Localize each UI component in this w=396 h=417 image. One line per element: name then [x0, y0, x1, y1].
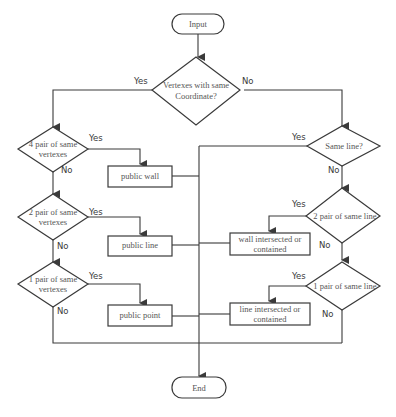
process-public-wall-label: public wall — [121, 171, 160, 181]
label-no-2pairline: No — [319, 240, 331, 250]
process-wall-intersected-line1: wall intersected or — [239, 234, 302, 244]
decision-1-pair-line-label: 1 pair of same line — [313, 281, 376, 291]
process-public-wall: public wall — [108, 166, 172, 187]
decision-4-pair-line2: vertexes — [39, 149, 67, 159]
edge-coord-yes — [53, 90, 152, 127]
label-yes-2pair: Yes — [88, 207, 103, 217]
node-end: End — [172, 377, 226, 398]
label-yes-4pair: Yes — [88, 133, 103, 143]
decision-2-pair-line: 2 pair of same line — [306, 188, 380, 243]
process-line-intersected-line2: contained — [253, 314, 287, 324]
decision-same-line-label: Same line? — [325, 141, 363, 151]
decision-2-pair-line1: 2 pair of same — [29, 207, 78, 217]
edge-1pair-yes — [88, 284, 140, 303]
decision-1-pair-vertexes: 1 pair of same vertexes — [18, 262, 88, 307]
label-no-sameline: No — [328, 165, 340, 175]
edge-2pairline-yes — [269, 216, 307, 231]
process-wall-intersected-line2: contained — [253, 244, 287, 254]
edge-4pair-yes — [88, 149, 140, 164]
node-end-label: End — [192, 383, 206, 393]
process-public-point-label: public point — [120, 310, 161, 320]
decision-2-pair-line2: vertexes — [39, 217, 67, 227]
label-no-coord: No — [242, 76, 254, 86]
decision-1-pair-line: 1 pair of same line — [306, 262, 380, 310]
decision-same-coordinate-line1: Vertexes with same — [163, 80, 229, 90]
decision-4-pair-vertexes: 4 pair of same vertexes — [18, 127, 88, 172]
process-public-line: public line — [108, 236, 172, 256]
process-line-intersected-line1: line intersected or — [240, 304, 301, 314]
process-public-line-label: public line — [122, 240, 158, 250]
node-input: Input — [172, 14, 224, 34]
node-input-label: Input — [189, 19, 208, 29]
decision-2-pair-vertexes: 2 pair of same vertexes — [18, 194, 88, 240]
decision-1-pair-line2: vertexes — [39, 284, 67, 294]
decision-same-coordinate-line2: Coordinate? — [175, 91, 217, 101]
label-yes-coord: Yes — [133, 76, 148, 86]
label-no-2pair: No — [57, 241, 69, 251]
label-yes-1pairline: Yes — [291, 271, 306, 281]
decision-1-pair-line1: 1 pair of same — [29, 274, 78, 284]
label-no-4pair: No — [61, 165, 73, 175]
label-yes-2pairline: Yes — [291, 199, 306, 209]
edge-1pairline-yes — [269, 286, 307, 301]
decision-same-line: Same line? — [307, 126, 380, 166]
process-public-point: public point — [108, 305, 172, 326]
label-no-1pairline: No — [322, 309, 334, 319]
edge-coord-no — [244, 90, 342, 126]
decision-2-pair-line-label: 2 pair of same line — [313, 211, 376, 221]
label-yes-1pair: Yes — [88, 271, 103, 281]
label-yes-sameline: Yes — [291, 132, 306, 142]
decision-4-pair-line1: 4 pair of same — [29, 139, 78, 149]
process-line-intersected: line intersected or contained — [230, 303, 310, 325]
process-wall-intersected: wall intersected or contained — [230, 233, 310, 255]
decision-same-coordinate: Vertexes with same Coordinate? — [152, 57, 240, 125]
flowchart-canvas: Input Vertexes with same Coordinate? Yes… — [0, 0, 396, 417]
label-no-1pair: No — [57, 306, 69, 316]
edge-2pair-yes — [88, 217, 140, 234]
